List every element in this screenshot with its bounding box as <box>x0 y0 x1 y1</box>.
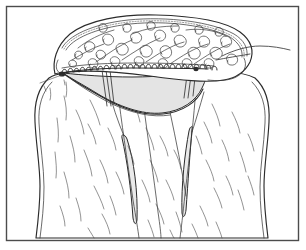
surgical-illustration <box>0 0 306 250</box>
knot-right <box>193 67 198 71</box>
figure-container: Elevated flap reflected superiorly with … <box>0 0 306 250</box>
